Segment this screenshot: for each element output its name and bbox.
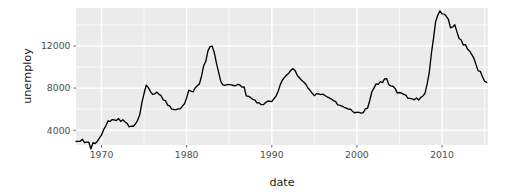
panel-background — [76, 8, 488, 145]
x-axis-tick-label: 2010 — [430, 149, 454, 160]
unemployment-line-chart: 4000800012000 19701980199020002010 date … — [0, 0, 514, 194]
chart-canvas: 4000800012000 19701980199020002010 date … — [0, 0, 514, 194]
panel — [76, 8, 488, 149]
x-axis-tick-label: 1980 — [175, 149, 199, 160]
y-axis-tick-label: 4000 — [47, 125, 71, 136]
x-axis-tick-label: 1970 — [90, 149, 114, 160]
y-axis-title: unemploy — [21, 48, 34, 104]
x-axis-tick-label: 2000 — [345, 149, 369, 160]
y-axis-tick-label: 12000 — [41, 40, 71, 51]
x-axis-tick-label: 1990 — [260, 149, 284, 160]
x-axis-title: date — [269, 176, 294, 189]
y-axis-tick-label: 8000 — [47, 82, 71, 93]
